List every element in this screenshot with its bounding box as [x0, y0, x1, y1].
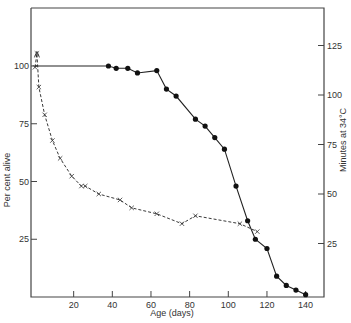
minutes-series	[33, 51, 260, 234]
right-tick-label: 100	[327, 90, 342, 100]
data-point	[125, 66, 130, 71]
x-tick-label: 100	[221, 300, 236, 310]
left-tick-label: 75	[19, 119, 29, 129]
data-point	[58, 156, 62, 160]
x-tick-label: 40	[107, 300, 117, 310]
data-point	[129, 206, 133, 210]
data-point	[97, 192, 101, 196]
data-point	[70, 174, 74, 178]
data-point	[264, 246, 269, 251]
left-tick-label: 50	[19, 177, 29, 187]
data-point	[174, 93, 179, 98]
data-point	[284, 283, 289, 288]
left-tick-label: 25	[19, 234, 29, 244]
survival-series	[35, 63, 308, 297]
data-point	[253, 237, 258, 242]
data-point	[164, 87, 169, 92]
left-axis-ticks: 255075100	[14, 61, 37, 244]
data-point	[233, 184, 238, 189]
data-point	[193, 117, 198, 122]
series-layer	[33, 51, 308, 297]
data-point	[203, 123, 208, 128]
right-tick-label: 25	[327, 239, 337, 249]
right-tick-label: 125	[327, 41, 342, 51]
x-tick-label: 140	[298, 300, 313, 310]
data-point	[106, 63, 111, 68]
plot-frame	[31, 8, 324, 297]
chart: 20406080100120140 255075100 255075100125…	[0, 0, 351, 323]
data-point	[255, 229, 259, 233]
x-tick-label: 120	[259, 300, 274, 310]
data-point	[114, 66, 119, 71]
data-point	[83, 184, 87, 188]
x-tick-label: 20	[69, 300, 79, 310]
data-point	[303, 292, 308, 297]
left-tick-label: 100	[14, 61, 29, 71]
data-point	[135, 70, 140, 75]
left-axis-label: Per cent alive	[2, 153, 12, 208]
data-point	[79, 184, 83, 188]
data-point	[274, 274, 279, 279]
data-point	[212, 135, 217, 140]
data-point	[193, 214, 197, 218]
right-tick-label: 75	[327, 140, 337, 150]
data-point	[154, 68, 159, 73]
data-point	[293, 287, 298, 292]
data-point	[245, 218, 250, 223]
data-point	[222, 147, 227, 152]
x-axis-label: Age (days)	[150, 308, 194, 318]
right-axis-label: Minutes at 34°C	[338, 107, 348, 172]
data-point	[180, 222, 184, 226]
right-tick-label: 50	[327, 189, 337, 199]
